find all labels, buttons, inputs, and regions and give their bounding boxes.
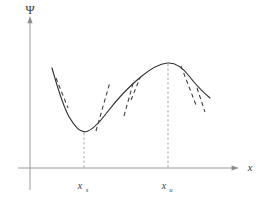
- potential-curve: [52, 63, 210, 132]
- tick-label-stable-subscript: s: [86, 186, 89, 193]
- tick-label-stable-main: x: [77, 180, 83, 191]
- y-axis-arrowhead: [27, 16, 32, 23]
- tangent-right-tail: [197, 88, 205, 112]
- plot-canvas: Ψ x x s x u: [0, 0, 262, 203]
- tick-label-unstable-main: x: [161, 180, 167, 191]
- x-axis-label: x: [247, 162, 253, 173]
- tick-label-unstable-subscript: u: [169, 186, 173, 193]
- y-axis-label: Ψ: [25, 3, 35, 17]
- tangent-midslope-lower: [124, 80, 134, 116]
- tangent-right-of-max: [181, 66, 196, 105]
- tangent-left-descending: [56, 78, 68, 108]
- potential-curve-figure: Ψ x x s x u: [0, 0, 262, 203]
- x-axis-arrowhead: [232, 165, 239, 170]
- tangent-left-ascending: [96, 82, 110, 131]
